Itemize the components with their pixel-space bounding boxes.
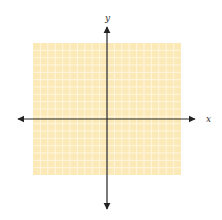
y-axis-label: y	[104, 13, 111, 23]
x-axis-label: x	[206, 114, 211, 124]
coordinate-plane: x y	[0, 0, 222, 220]
